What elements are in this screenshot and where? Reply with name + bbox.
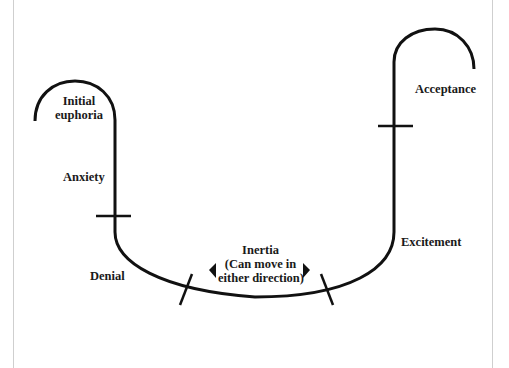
label-line: (Can move in bbox=[218, 257, 303, 271]
arrow-left-icon bbox=[209, 263, 216, 278]
label-line: euphoria bbox=[55, 108, 103, 122]
tick-denial-inertia bbox=[180, 274, 192, 305]
label-line: either direction) bbox=[218, 271, 303, 285]
label-anxiety: Anxiety bbox=[63, 170, 105, 184]
label-line: Inertia bbox=[218, 243, 303, 257]
label-initial-euphoria: Initial euphoria bbox=[55, 94, 103, 122]
label-line: Initial bbox=[55, 94, 103, 108]
arrow-right-icon bbox=[303, 263, 310, 278]
label-denial: Denial bbox=[90, 269, 125, 283]
label-acceptance: Acceptance bbox=[415, 82, 476, 96]
label-inertia: Inertia (Can move in either direction) bbox=[218, 243, 303, 285]
label-excitement: Excitement bbox=[401, 235, 461, 249]
change-curve bbox=[0, 0, 509, 368]
